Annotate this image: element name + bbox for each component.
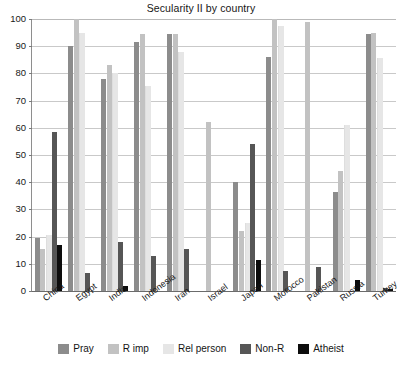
bar-r-imp [74,19,79,291]
y-tick-label: 70 [0,96,26,105]
legend-item-non-r[interactable]: Non-R [240,343,284,354]
y-tick-label: 0 [0,286,26,295]
bar-pray [35,238,40,291]
y-tick-label: 20 [0,232,26,241]
bar-r-imp [140,34,145,291]
bar-r-imp [173,34,178,291]
legend-item-pray[interactable]: Pray [58,343,94,354]
bar-pray [68,46,73,291]
secularity-bar-chart: Secularity II by country 010203040506070… [0,0,402,370]
legend-item-r-imp[interactable]: R imp [108,343,149,354]
bar-group [164,19,197,291]
legend-swatch-icon [240,344,251,354]
y-tick-label: 10 [0,259,26,268]
bar-pray [366,34,371,291]
bar-non-r [250,144,255,291]
chart-title: Secularity II by country [0,2,402,14]
bar-r-imp [239,231,244,291]
bar-group [98,19,131,291]
legend-label: Non-R [255,343,284,354]
bar-group [131,19,164,291]
bar-pray [266,57,271,291]
y-tick-label: 50 [0,150,26,159]
bar-group [231,19,264,291]
bar-group [363,19,396,291]
bar-r-imp [338,171,343,291]
y-tick-label: 90 [0,41,26,50]
legend-label: Atheist [313,343,344,354]
legend-label: Rel person [178,343,226,354]
bar-pray [233,182,238,291]
bar-r-imp [371,33,376,291]
y-tick-label: 30 [0,204,26,213]
plot-area [31,19,396,292]
legend-item-rel-person[interactable]: Rel person [163,343,226,354]
y-tick-label: 100 [0,14,26,23]
legend-swatch-icon [163,344,174,354]
legend-swatch-icon [298,344,309,354]
y-tick-label: 40 [0,177,26,186]
bar-pray [101,79,106,291]
chart-legend: PrayR impRel personNon-RAtheist [0,343,402,354]
bar-r-imp [107,65,112,291]
bar-non-r [52,132,57,291]
bar-rel-person [278,26,284,291]
legend-label: R imp [123,343,149,354]
legend-swatch-icon [58,344,69,354]
bar-r-imp [206,122,211,291]
bar-group [65,19,98,291]
bar-rel-person [79,33,85,291]
legend-swatch-icon [108,344,119,354]
bar-r-imp [40,249,45,291]
legend-item-atheist[interactable]: Atheist [298,343,344,354]
bar-group [297,19,330,291]
y-tick-mark [29,291,32,292]
bar-group [264,19,297,291]
bar-r-imp [272,19,277,291]
bar-group [330,19,363,291]
bar-r-imp [305,22,310,291]
bar-rel-person [377,58,383,291]
bar-pray [134,42,139,291]
y-tick-label: 80 [0,68,26,77]
bar-group [32,19,65,291]
bar-rel-person [344,125,350,291]
bar-pray [167,34,172,291]
bar-group [197,19,230,291]
legend-label: Pray [73,343,94,354]
y-tick-label: 60 [0,123,26,132]
